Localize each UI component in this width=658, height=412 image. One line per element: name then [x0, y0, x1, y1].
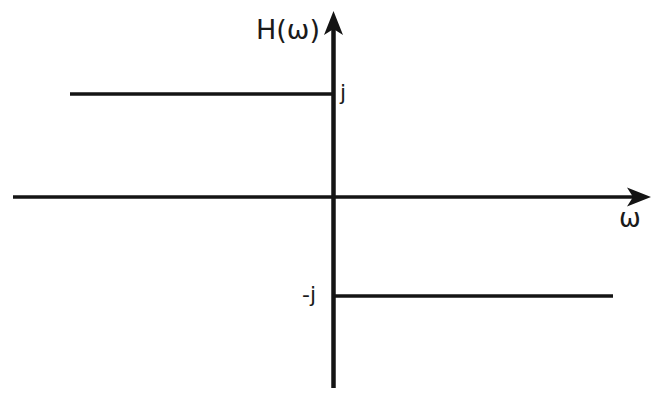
y-tick-label-negative-j: -j: [302, 284, 316, 306]
vertical-axis-group: [324, 11, 343, 388]
y-axis-title-label: H(ω): [256, 16, 320, 43]
y-tick-label-positive-j: j: [340, 82, 346, 104]
hilbert-transform-figure: H(ω) ω j -j: [0, 0, 658, 412]
plot-canvas: [0, 0, 658, 412]
x-axis-title-label: ω: [619, 205, 641, 231]
